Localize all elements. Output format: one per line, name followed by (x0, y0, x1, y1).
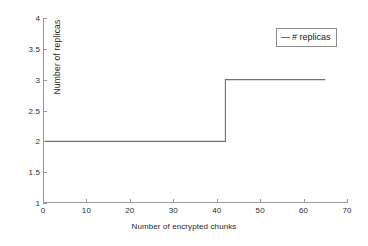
x-tick-label: 30 (169, 206, 178, 215)
legend-entry-label: # replicas (292, 33, 331, 42)
y-axis-title: Number of replicas (52, 0, 62, 122)
y-axis-title-wrapper: Number of replicas (0, 0, 22, 185)
x-tick-label: 50 (256, 206, 265, 215)
y-tick-label: 3 (35, 75, 40, 84)
y-tick (43, 203, 47, 204)
y-tick-label: 1 (35, 199, 40, 208)
line-marker-icon (281, 37, 290, 38)
y-tick-label: 2.5 (29, 106, 40, 115)
x-tick-label: 0 (41, 206, 46, 215)
y-tick-label: 3.5 (29, 44, 40, 53)
x-tick-label: 70 (342, 206, 351, 215)
x-tick-label: 10 (82, 206, 91, 215)
x-axis-title: Number of encrypted chunks (0, 222, 368, 231)
x-tick-label: 20 (125, 206, 134, 215)
x-tick-label: 60 (299, 206, 308, 215)
y-tick-label: 4 (35, 14, 40, 23)
chart-legend: # replicas (276, 28, 337, 47)
x-tick (347, 199, 348, 203)
y-tick-label: 2 (35, 137, 40, 146)
x-tick-label: 40 (212, 206, 221, 215)
chart-figure: 010203040506070 11.522.533.54 Number of … (0, 0, 368, 246)
y-tick-label: 1.5 (29, 168, 40, 177)
